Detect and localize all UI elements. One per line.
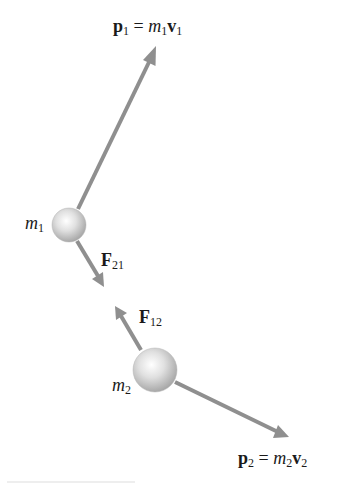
- label-p2-equation: p2 = m2v2: [238, 449, 307, 469]
- particle-m1-sphere: [52, 208, 86, 242]
- momentum-p2-arrow: [175, 382, 289, 438]
- label-f21: F21: [101, 251, 124, 271]
- momentum-diagram: [0, 0, 344, 487]
- force-f12-arrow: [115, 306, 141, 350]
- particle-m2-sphere: [133, 348, 177, 392]
- vector-p: p: [113, 16, 123, 36]
- label-f12: F12: [139, 308, 162, 328]
- faint-footer-line: [7, 481, 135, 483]
- label-m2: m2: [112, 376, 131, 396]
- force-f21-arrow: [77, 241, 104, 287]
- momentum-p1-arrow: [78, 46, 156, 209]
- label-p1-equation: p1 = m1v1: [113, 17, 182, 37]
- label-m1: m1: [25, 214, 44, 234]
